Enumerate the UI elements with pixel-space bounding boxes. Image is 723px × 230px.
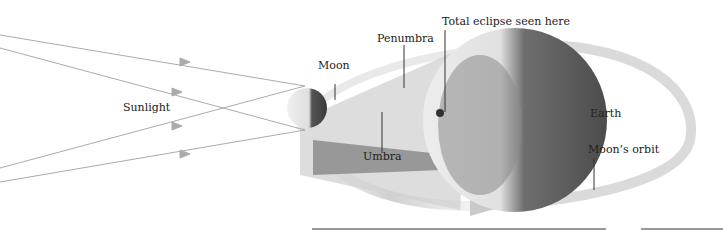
label-earth: Earth (590, 108, 621, 119)
ray-arrow-icon (172, 122, 182, 130)
ray-arrow-icon (180, 58, 190, 66)
label-moon: Moon (318, 60, 350, 71)
total-eclipse-spot (436, 109, 444, 117)
label-umbra: Umbra (363, 151, 402, 162)
label-penumbra: Penumbra (377, 33, 434, 44)
label-total-eclipse: Total eclipse seen here (442, 16, 570, 27)
moon-sphere (287, 88, 327, 128)
label-sunlight: Sunlight (123, 102, 170, 113)
ray-arrow-icon (180, 150, 190, 158)
shadow-on-earth (438, 55, 522, 195)
ray-arrow-icon (172, 88, 182, 96)
solar-eclipse-diagram: Sunlight Moon Penumbra Total eclipse see… (0, 0, 723, 230)
label-moons-orbit: Moon’s orbit (588, 144, 659, 155)
